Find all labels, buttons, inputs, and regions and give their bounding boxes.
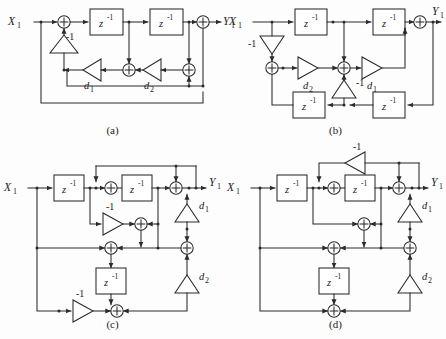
wire-d2-a6 bbox=[340, 293, 410, 311]
adder-left bbox=[266, 62, 278, 74]
output-subscript: 1 bbox=[440, 11, 444, 20]
d1-gain: d 1 bbox=[398, 194, 432, 222]
node-dot bbox=[411, 187, 414, 190]
delay-label: z bbox=[98, 18, 103, 29]
adder-2 bbox=[170, 182, 182, 194]
caption-a: (a) bbox=[0, 124, 225, 136]
delay-exponent: -1 bbox=[167, 13, 173, 22]
input-subscript: 1 bbox=[17, 21, 21, 30]
input-label: X bbox=[228, 15, 237, 27]
delay-block-2: z -1 bbox=[150, 9, 183, 35]
adder-3 bbox=[358, 218, 370, 230]
adder-mid-1 bbox=[123, 64, 135, 76]
d2-subscript: 2 bbox=[428, 276, 432, 285]
d2-subscript: 2 bbox=[205, 276, 209, 285]
delay-exponent: -1 bbox=[390, 96, 396, 105]
neg-one-label: -1 bbox=[356, 77, 364, 88]
wire-tap-neg1 bbox=[90, 188, 101, 224]
neg-one-gain-top: -1 bbox=[248, 22, 284, 62]
output-subscript: 1 bbox=[217, 182, 221, 191]
adder-4 bbox=[181, 242, 193, 254]
diagram-panel-c: z -1 z -1 bbox=[0, 152, 225, 322]
neg-one-label: -1 bbox=[66, 31, 74, 42]
neg-one-label: -1 bbox=[106, 201, 114, 212]
node-dot bbox=[332, 21, 335, 24]
node-dot bbox=[418, 187, 421, 190]
delay-exponent: -1 bbox=[361, 179, 367, 188]
caption-c: (c) bbox=[0, 318, 225, 330]
delay-label: z bbox=[303, 18, 308, 29]
output-label: Y bbox=[209, 176, 217, 188]
wire-in-neg2 bbox=[37, 248, 71, 311]
delay-exponent: -1 bbox=[107, 13, 113, 22]
d1-subscript: 1 bbox=[205, 205, 209, 214]
figure-root: z -1 z -1 -1 bbox=[0, 0, 446, 339]
node-dot bbox=[282, 67, 285, 70]
adder-4 bbox=[404, 242, 416, 254]
delay-label: z bbox=[61, 184, 66, 195]
delay-exponent: -1 bbox=[293, 179, 299, 188]
caption-d: (d) bbox=[225, 318, 446, 330]
adder-5 bbox=[328, 242, 340, 254]
delay-block-2: z -1 bbox=[373, 9, 405, 35]
delay-block-3: z -1 bbox=[96, 268, 126, 294]
delay-label: z bbox=[352, 184, 357, 195]
d1-subscript: 1 bbox=[428, 205, 432, 214]
delay-label: z bbox=[158, 18, 163, 29]
delay-exponent: -1 bbox=[335, 272, 341, 281]
adder-mid bbox=[338, 62, 350, 74]
d2-gain: d 2 bbox=[298, 57, 318, 94]
input-subscript: 1 bbox=[236, 187, 240, 196]
output-label: Y bbox=[432, 5, 440, 17]
d1-gain: d 1 bbox=[175, 194, 209, 222]
neg-one-gain-top: -1 bbox=[345, 141, 365, 174]
wire-out-fb bbox=[189, 28, 203, 86]
node-dot bbox=[95, 187, 98, 190]
adder-3 bbox=[135, 218, 147, 230]
d2-gain: d 2 bbox=[143, 59, 161, 94]
delay-label: z bbox=[129, 184, 134, 195]
adder-6 bbox=[111, 305, 123, 317]
wire-neg-a1 bbox=[319, 163, 345, 182]
diagram-panel-d: z -1 z -1 -1 bbox=[225, 152, 446, 322]
delay-block-1: z -1 bbox=[54, 175, 84, 201]
input-subscript: 1 bbox=[238, 21, 242, 30]
node-dot bbox=[409, 228, 412, 231]
delay-block-2: z -1 bbox=[345, 175, 375, 201]
delay-label: z bbox=[284, 184, 289, 195]
diagram-panel-a: z -1 z -1 -1 bbox=[0, 0, 225, 120]
node-dot bbox=[175, 165, 178, 168]
delay-exponent: -1 bbox=[312, 13, 318, 22]
neg-one-label: -1 bbox=[76, 288, 84, 299]
diagram-panel-b: z -1 z -1 -1 bbox=[225, 0, 446, 120]
neg-one-gain-upper: -1 bbox=[103, 201, 123, 235]
neg-one-label: -1 bbox=[248, 38, 256, 49]
adder-1 bbox=[328, 182, 340, 194]
adder-output bbox=[197, 16, 209, 28]
delay-block-3: z -1 bbox=[319, 268, 349, 294]
delay-exponent: -1 bbox=[138, 179, 144, 188]
d1-gain: d 1 bbox=[83, 59, 101, 94]
input-subscript: 1 bbox=[13, 187, 17, 196]
adder-2 bbox=[393, 182, 405, 194]
node-dot bbox=[157, 247, 160, 250]
node-dot bbox=[186, 228, 189, 231]
input-label: X bbox=[3, 181, 12, 193]
wire-d3-al bbox=[272, 74, 293, 105]
neg-one-label: -1 bbox=[353, 141, 361, 152]
node-dot bbox=[188, 187, 191, 190]
node-dot bbox=[58, 310, 61, 313]
delay-exponent: -1 bbox=[310, 96, 316, 105]
delay-exponent: -1 bbox=[112, 272, 118, 281]
output-subscript: 1 bbox=[439, 182, 443, 191]
output-label: Y bbox=[431, 176, 439, 188]
node-dot bbox=[63, 69, 66, 72]
input-label: X bbox=[226, 181, 235, 193]
wire-out-fb-d4 bbox=[408, 22, 433, 105]
delay-block-1: z -1 bbox=[90, 9, 123, 35]
adder-mid-2 bbox=[183, 64, 195, 76]
input-label: X bbox=[7, 15, 16, 27]
delay-exponent: -1 bbox=[390, 13, 396, 22]
wire-d2-a6 bbox=[123, 293, 187, 311]
adder-output bbox=[414, 16, 426, 28]
